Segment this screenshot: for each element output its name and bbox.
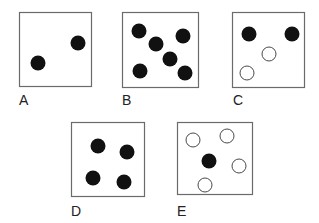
panel-label-c: C (233, 93, 243, 107)
panel-c (233, 13, 305, 88)
filled-dot (285, 27, 300, 42)
filled-dot (163, 52, 178, 67)
filled-dot (31, 56, 46, 71)
panel-label-e: E (177, 204, 186, 218)
filled-dot (120, 145, 135, 160)
open-dot (198, 178, 212, 192)
panel-e (178, 123, 253, 195)
panel-a (20, 13, 92, 87)
open-dot (232, 159, 246, 173)
panel-b (123, 13, 199, 88)
filled-dot (71, 36, 86, 51)
panel-box (72, 123, 145, 197)
filled-dot (149, 37, 164, 52)
panel-label-d: D (71, 204, 81, 218)
open-dot (262, 47, 276, 61)
filled-dot (178, 66, 193, 81)
open-dot (220, 129, 234, 143)
open-dot (240, 66, 254, 80)
filled-dot (91, 139, 106, 154)
panel-d (72, 123, 145, 197)
filled-dot (202, 154, 217, 169)
filled-dot (86, 171, 101, 186)
filled-dot (176, 29, 191, 44)
filled-dot (132, 24, 147, 39)
open-dot (186, 133, 200, 147)
filled-dot (133, 64, 148, 79)
panel-label-a: A (19, 93, 28, 107)
filled-dot (242, 27, 257, 42)
filled-dot (117, 175, 132, 190)
dot-panels-figure (0, 0, 319, 223)
panel-label-b: B (122, 93, 131, 107)
